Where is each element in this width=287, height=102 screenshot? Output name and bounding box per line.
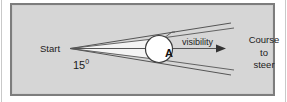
angle-value: 15 — [73, 59, 85, 71]
page-edge-left — [1, 0, 2, 102]
figure-screenshot: A Start 150 visibility Course to steer — [0, 0, 287, 102]
degree-symbol: 0 — [85, 58, 89, 65]
course-label-line-3: steer — [242, 60, 286, 70]
course-label-line-1: Course — [242, 35, 286, 45]
course-arrowhead — [216, 45, 226, 53]
course-label-line-2: to — [242, 48, 286, 58]
visibility-label: visibility — [182, 38, 213, 47]
mark-a-label: A — [160, 47, 178, 59]
course-to-steer-label: Course to steer — [242, 35, 286, 73]
angle-label: 150 — [73, 60, 89, 71]
figure-frame: A Start 150 visibility Course to steer — [10, 3, 275, 96]
start-label: Start — [40, 44, 60, 54]
